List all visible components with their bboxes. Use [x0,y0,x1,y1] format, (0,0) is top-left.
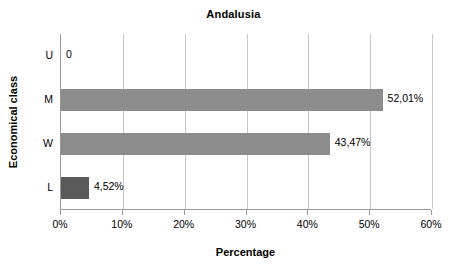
plot-area: 052,01%43,47%4,52% [60,34,431,210]
bar-chart: Andalusia Economical class 052,01%43,47%… [0,0,467,273]
x-tick-label: 20% [162,218,206,230]
x-tick-mark [246,210,247,215]
x-tick-mark [122,210,123,215]
bar-value-label-W: 43,47% [335,136,371,148]
x-tick-label: 50% [347,218,391,230]
category-label-L: L [27,181,53,193]
y-axis-title: Economical class [7,32,19,212]
bar-value-label-M: 52,01% [388,92,424,104]
bars-layer: 052,01%43,47%4,52% [61,34,431,209]
bar-value-label-L: 4,52% [94,180,124,192]
category-label-W: W [27,137,53,149]
chart-title: Andalusia [0,8,467,20]
bar-L[interactable] [61,177,89,199]
bar-M[interactable] [61,89,383,111]
x-axis-title: Percentage [60,246,431,258]
category-label-M: M [27,93,53,105]
category-label-U: U [27,49,53,61]
x-tick-mark [60,210,61,215]
x-tick-label: 40% [285,218,329,230]
gridline-60pct [432,34,433,209]
x-tick-mark [307,210,308,215]
x-tick-label: 30% [224,218,268,230]
bar-row: 52,01% [61,78,431,122]
x-tick-label: 10% [100,218,144,230]
x-tick-mark [431,210,432,215]
x-tick-mark [184,210,185,215]
bar-value-label-U: 0 [66,48,72,60]
x-tick-label: 60% [409,218,453,230]
bar-row: 43,47% [61,122,431,166]
bar-row: 0 [61,34,431,78]
bar-row: 4,52% [61,166,431,210]
x-tick-mark [369,210,370,215]
x-tick-label: 0% [38,218,82,230]
bar-W[interactable] [61,133,330,155]
